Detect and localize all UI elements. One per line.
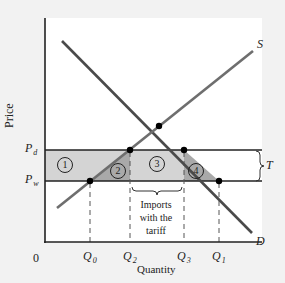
- tariff-diagram: [0, 0, 285, 283]
- demand-label: D: [256, 235, 265, 247]
- pd-demand-point: [181, 147, 187, 153]
- area-3-marker: 3: [149, 156, 165, 172]
- q2-label: Q2: [123, 250, 137, 265]
- x-axis-label: Quantity: [137, 264, 176, 275]
- pd-supply-point: [127, 147, 133, 153]
- area-1-marker: 1: [57, 157, 73, 173]
- pw-label: Pw: [25, 173, 39, 188]
- imports-annotation: Imports with the tariff: [128, 198, 184, 237]
- pw-label-sub: w: [33, 179, 38, 188]
- pd-label-main: P: [25, 141, 32, 155]
- pw-label-main: P: [25, 172, 32, 186]
- q3-label: Q3: [177, 250, 191, 265]
- q1-label: Q1: [212, 250, 226, 265]
- area-4-marker: 4: [188, 163, 204, 179]
- origin-label: 0: [33, 252, 39, 264]
- equilibrium-point: [156, 123, 162, 129]
- area-2-marker: 2: [110, 163, 126, 179]
- pw-demand-point: [216, 178, 222, 184]
- supply-label: S: [257, 38, 263, 50]
- q0-label: Q0: [83, 250, 97, 265]
- pd-label-sub: d: [33, 148, 37, 157]
- y-axis-label: Price: [2, 103, 17, 128]
- pd-label: Pd: [25, 142, 37, 157]
- pw-supply-point: [87, 178, 93, 184]
- tariff-label: T: [266, 159, 273, 171]
